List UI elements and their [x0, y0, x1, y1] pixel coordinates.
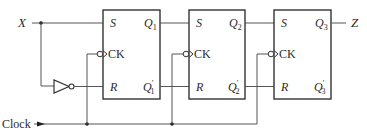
- ff2-s-label: S: [196, 16, 202, 30]
- ff3-s-label: S: [281, 16, 287, 30]
- wire-clock-to-ck2: [172, 54, 183, 124]
- output-z-label: Z: [351, 15, 359, 30]
- wire-clock-to-ck1: [87, 54, 97, 124]
- flip-flop-1: S R CK Q1 Q′1: [97, 10, 160, 99]
- ff1-ck-label: CK: [108, 47, 125, 61]
- ff2-ck-label: CK: [194, 47, 211, 61]
- wire-clock-to-ck3: [257, 54, 268, 124]
- flip-flop-2: S R CK Q2 Q′2: [183, 10, 245, 99]
- ff3-r-label: R: [280, 80, 289, 94]
- ff1-qprime-label: Q′1: [143, 79, 154, 96]
- ff3-qprime-label: Q′3: [314, 79, 325, 96]
- clock-label: Clock: [2, 117, 31, 131]
- ff1-s-label: S: [110, 16, 116, 30]
- ff1-r-label: R: [109, 80, 118, 94]
- circuit-diagram: X Clock S R CK Q1 Q′1 S R CK Q2 Q′2: [0, 0, 367, 136]
- input-x-label: X: [17, 15, 27, 30]
- ff2-qprime-label: Q′2: [228, 79, 239, 96]
- flip-flop-3: S R CK Q3 Q′3: [268, 10, 331, 99]
- clock-arrow-icon: [37, 122, 45, 127]
- inverter-icon: [54, 80, 74, 93]
- ff3-ck-label: CK: [279, 47, 296, 61]
- ff2-r-label: R: [195, 80, 204, 94]
